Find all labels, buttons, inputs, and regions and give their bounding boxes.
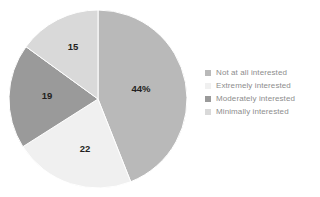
pie-slice-data-label: 22 <box>80 143 91 154</box>
pie-slice-data-label: 44% <box>131 83 151 94</box>
legend-swatch-icon <box>205 96 211 102</box>
pie-slice-data-label: 19 <box>42 90 53 101</box>
chart-legend: Not at all interestedExtremely intereste… <box>205 66 320 118</box>
legend-swatch-icon <box>205 109 211 115</box>
pie-slice-group <box>9 10 187 188</box>
pie-svg: 44%221915 <box>0 0 200 197</box>
legend-item[interactable]: Extremely interested <box>205 79 320 92</box>
legend-item-label: Not at all interested <box>216 66 287 79</box>
legend-item-label: Extremely interested <box>216 79 291 92</box>
legend-item-label: Minimally interested <box>216 105 289 118</box>
legend-item[interactable]: Minimally interested <box>205 105 320 118</box>
pie-chart-plot-area: 44%221915 <box>0 0 200 197</box>
legend-item[interactable]: Not at all interested <box>205 66 320 79</box>
pie-chart-figure: 44%221915 Not at all interestedExtremely… <box>0 0 320 197</box>
legend-swatch-icon <box>205 83 211 89</box>
pie-slice-data-label: 15 <box>68 41 79 52</box>
legend-item-label: Moderately interested <box>216 92 295 105</box>
legend-swatch-icon <box>205 70 211 76</box>
legend-item[interactable]: Moderately interested <box>205 92 320 105</box>
